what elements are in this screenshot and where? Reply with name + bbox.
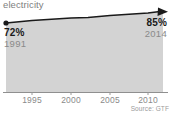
- start-point-marker: [3, 20, 8, 25]
- area-fill: [6, 12, 163, 93]
- source-credit: Source: GTF: [131, 105, 169, 112]
- annotation-start: 72% 1991: [4, 27, 26, 49]
- annotation-start-percent: 72%: [4, 27, 26, 38]
- x-tick-label-2005: 2005: [100, 95, 120, 105]
- x-tick-label-2000: 2000: [61, 95, 81, 105]
- chart-figure: electricity 72% 1991 85% 2014 1995 2000 …: [0, 0, 171, 115]
- annotation-end-percent: 85%: [145, 17, 167, 28]
- x-tick-label-2010: 2010: [138, 95, 158, 105]
- annotation-end-year: 2014: [145, 28, 167, 39]
- x-tick-label-1995: 1995: [22, 95, 42, 105]
- annotation-end: 85% 2014: [145, 17, 167, 39]
- annotation-start-year: 1991: [4, 38, 26, 49]
